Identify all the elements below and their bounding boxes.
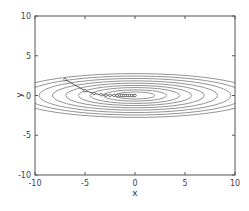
path-point-marker bbox=[64, 78, 67, 81]
path-point-marker bbox=[84, 89, 87, 92]
path-point-marker bbox=[134, 94, 137, 97]
y-axis-label: y bbox=[14, 92, 24, 98]
x-tick-label: 10 bbox=[230, 179, 240, 188]
x-tick-label: -5 bbox=[81, 179, 89, 188]
path-point-marker bbox=[93, 92, 96, 95]
x-axis-label: x bbox=[132, 188, 138, 198]
x-tick-label: 0 bbox=[132, 179, 137, 188]
y-tick-label: 10 bbox=[21, 12, 31, 21]
y-tick-label: 0 bbox=[26, 92, 31, 101]
path-point-marker bbox=[109, 94, 112, 97]
x-tick-label: 5 bbox=[182, 179, 187, 188]
x-tick-label: -10 bbox=[28, 179, 41, 188]
y-tick-label: -10 bbox=[18, 171, 31, 180]
y-tick-label: 5 bbox=[26, 52, 31, 61]
path-point-marker bbox=[105, 94, 108, 97]
contour-chart: -10-50510 -10-50510 x y bbox=[0, 0, 249, 211]
path-point-marker bbox=[100, 93, 103, 96]
path-point-marker bbox=[116, 94, 119, 97]
path-point-marker bbox=[113, 94, 116, 97]
y-tick-label: -5 bbox=[23, 131, 31, 140]
x-tick-labels: -10-50510 bbox=[28, 179, 240, 188]
